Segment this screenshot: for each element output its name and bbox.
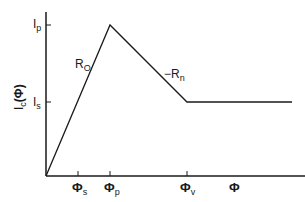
characteristic-curve xyxy=(46,25,292,176)
tick-label-is: Is xyxy=(33,96,41,109)
y-axis-label: Ic(Φ) xyxy=(13,84,26,110)
tick-label-phi-p: Φp xyxy=(104,182,120,195)
characteristic-diagram xyxy=(0,0,305,202)
tick-label-ip: Ip xyxy=(33,18,41,31)
segment-label-rn: −Rn xyxy=(164,68,185,81)
tick-label-phi-v: Φv xyxy=(180,182,195,195)
segment-label-ro: RO xyxy=(75,58,91,71)
x-axis-label: Φ xyxy=(229,182,240,194)
tick-label-phi-s: Φs xyxy=(72,182,87,195)
